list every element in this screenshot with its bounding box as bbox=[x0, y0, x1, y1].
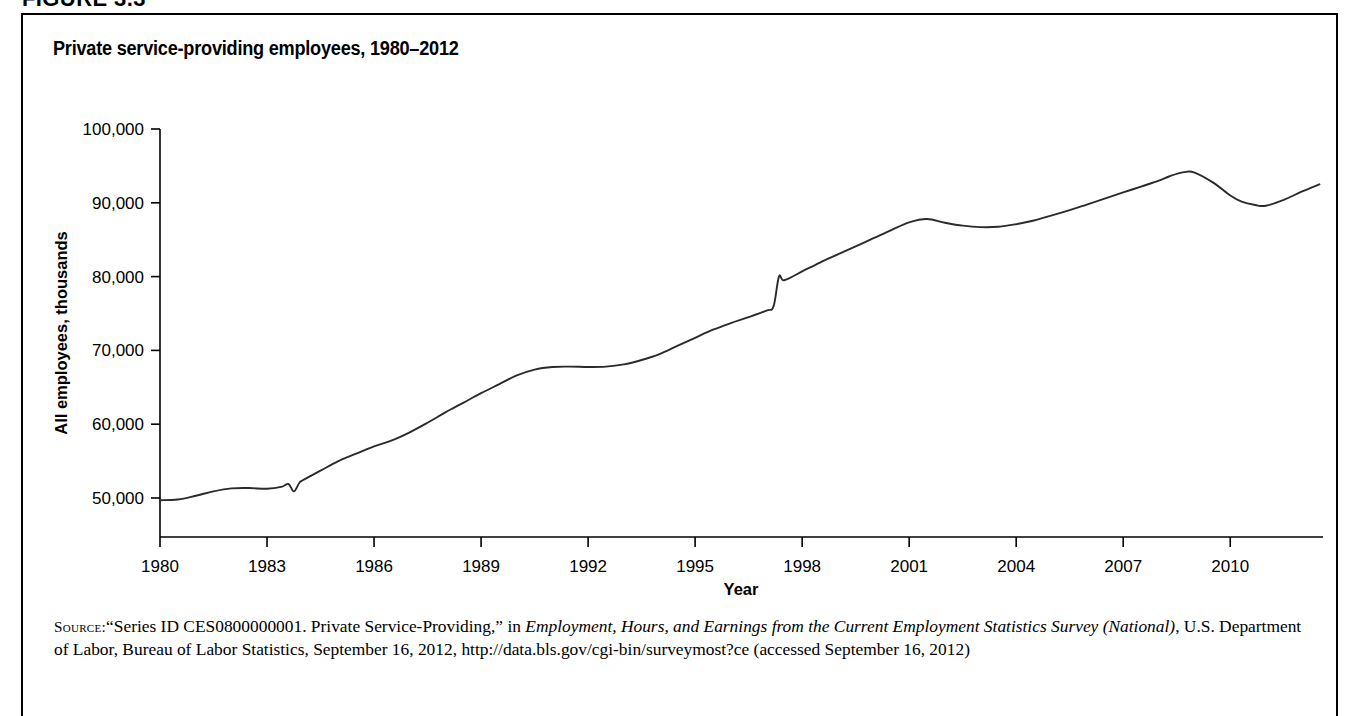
x-tick-label: 1998 bbox=[783, 557, 821, 576]
source-publication-title: Employment, Hours, and Earnings from the… bbox=[525, 616, 1175, 636]
source-note: Source:“Series ID CES0800000001. Private… bbox=[54, 615, 1320, 661]
x-tick-label: 2001 bbox=[890, 557, 928, 576]
y-tick-label: 100,000 bbox=[83, 120, 144, 139]
x-tick-label: 1989 bbox=[462, 557, 500, 576]
x-tick-label: 1995 bbox=[676, 557, 714, 576]
y-tick-label: 50,000 bbox=[92, 489, 144, 508]
x-axis-ticks bbox=[160, 537, 1230, 547]
x-axis-tick-labels: 1980198319861989199219951998200120042007… bbox=[141, 557, 1249, 576]
x-tick-label: 2010 bbox=[1211, 557, 1249, 576]
source-label: Source: bbox=[54, 618, 106, 635]
line-chart: 50,00060,00070,00080,00090,000100,000 19… bbox=[23, 15, 1340, 615]
chart-svg: 50,00060,00070,00080,00090,000100,000 19… bbox=[23, 15, 1340, 615]
x-tick-label: 1986 bbox=[355, 557, 393, 576]
y-tick-label: 80,000 bbox=[92, 268, 144, 287]
y-axis-ticks bbox=[151, 129, 160, 498]
y-axis-tick-labels: 50,00060,00070,00080,00090,000100,000 bbox=[83, 120, 144, 508]
x-tick-label: 2007 bbox=[1104, 557, 1142, 576]
x-axis-title: Year bbox=[724, 580, 759, 598]
figure-number-header: FIGURE 3.3 bbox=[22, 0, 146, 8]
x-tick-label: 2004 bbox=[997, 557, 1035, 576]
figure-frame: Private service-providing employees, 198… bbox=[21, 13, 1338, 716]
y-axis-title: All employees, thousands bbox=[52, 231, 70, 435]
x-tick-label: 1992 bbox=[569, 557, 607, 576]
source-text-part1: “Series ID CES0800000001. Private Servic… bbox=[106, 616, 525, 636]
x-tick-label: 1980 bbox=[141, 557, 179, 576]
chart-title: Private service-providing employees, 198… bbox=[53, 37, 459, 60]
y-tick-label: 60,000 bbox=[92, 415, 144, 434]
y-tick-label: 70,000 bbox=[92, 341, 144, 360]
y-tick-label: 90,000 bbox=[92, 194, 144, 213]
data-series-line bbox=[160, 171, 1319, 500]
x-tick-label: 1983 bbox=[248, 557, 286, 576]
